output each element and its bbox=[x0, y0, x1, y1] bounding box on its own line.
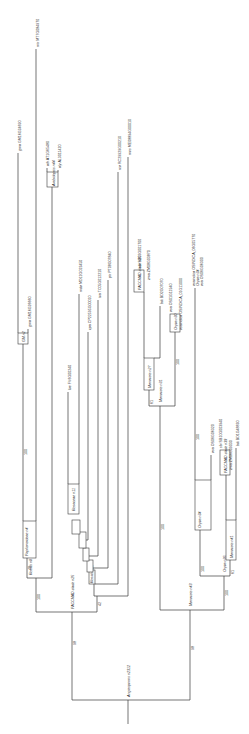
leaf-osa2: osa OS06G06300 bbox=[200, 257, 204, 286]
label-n41: Monocots n41 bbox=[230, 535, 234, 558]
support-oryza: 100 bbox=[196, 434, 200, 440]
support-n22: 42 bbox=[98, 602, 102, 606]
leaf-osi1: osaindica OSINDICA_01G11000 bbox=[179, 278, 183, 330]
support-n30: 100 bbox=[176, 359, 180, 365]
label-n4: Papilionoideae n4 bbox=[25, 527, 29, 556]
box-n13 bbox=[72, 520, 80, 534]
root-label: Angiosperms n2312 bbox=[127, 665, 131, 698]
label-n39: PACCMAD clade n39 bbox=[224, 439, 228, 473]
box-n15 bbox=[79, 532, 86, 548]
leaf-mdo: mdo MD12G023450 bbox=[79, 260, 83, 292]
leaf-osa1: osa OS01G11940 bbox=[169, 283, 173, 312]
leaf-fve: fve FV6G00240 bbox=[68, 365, 72, 390]
box-n17 bbox=[83, 548, 89, 561]
label-n31: Monocots n31 bbox=[159, 379, 163, 402]
leaf-ath: ath AT1G65480 bbox=[46, 141, 50, 166]
label-gm: GM n2 bbox=[22, 331, 26, 342]
support-gm: 100 bbox=[24, 449, 28, 455]
label-arabidopsis: Arabidopsis n44 bbox=[52, 160, 56, 187]
leaf-aly: aly AL3011420 bbox=[58, 144, 62, 168]
leaf-sbi1: sbi SB03G001700 bbox=[138, 239, 142, 268]
support-n36: 100 bbox=[201, 566, 205, 572]
leaf-mtr: mtr MT7G084970 bbox=[36, 19, 40, 47]
leaf-bdi2: bdi BD1G48830 bbox=[236, 420, 240, 446]
label-n27: Monocots n27 bbox=[148, 364, 152, 388]
phylogenetic-tree: Angiosperms n2312 98 PACCMAD clade n25 1… bbox=[0, 0, 249, 734]
leaf-tca: tca TC05G012210 bbox=[98, 269, 102, 298]
label-n43: Monocots n43 bbox=[189, 583, 193, 606]
leaf-sbi2: sbi SB10G003940 bbox=[219, 419, 223, 448]
support-monocot: 98 bbox=[191, 646, 195, 650]
leaf-zma2: zma ZM06G09030 bbox=[229, 440, 233, 471]
leaf-mes: mes ME08894G00010 bbox=[128, 119, 132, 155]
leaf-bdi1: bdi BD2G07070 bbox=[160, 278, 164, 304]
support-n4: 48 bbox=[28, 566, 32, 570]
support-n41: 61 bbox=[231, 570, 235, 574]
leaf-osa3: osa OS06G06320 bbox=[211, 424, 215, 453]
leaf-rco: rco RC29929G00210 bbox=[118, 136, 122, 170]
leaf-cpa: cpa CP22595G00010 bbox=[88, 295, 92, 330]
rosids-n22-label: PACCMAD clade n25 bbox=[71, 575, 75, 609]
label-n30: Oryza n30 bbox=[174, 313, 178, 330]
leaf-gma1: gma GM16G24690 bbox=[18, 120, 22, 151]
support-n31-stem: 100 bbox=[161, 524, 165, 530]
support-n31: 61 bbox=[150, 400, 154, 404]
support-eudicot: 98 bbox=[73, 641, 77, 645]
leaf-ptr: ptr PT08G07840 bbox=[108, 251, 112, 279]
box-n19 bbox=[87, 560, 93, 572]
support-n42-stem: 100 bbox=[225, 590, 229, 596]
support-n8: 100 bbox=[37, 594, 41, 600]
label-rosaceae: Rosaceae n11 bbox=[72, 488, 76, 511]
leaf-gma2: gma GM16G26660 bbox=[28, 296, 32, 327]
label-n36: Oryza n34 bbox=[198, 511, 202, 528]
leaf-zma1: zma ZM08G03870 bbox=[147, 250, 151, 281]
